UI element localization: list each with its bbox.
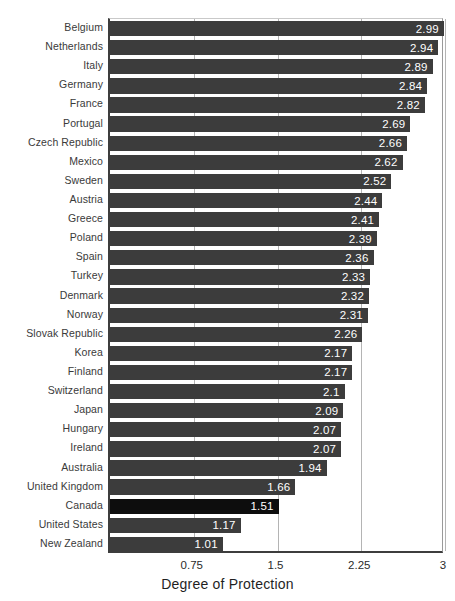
bar-row[interactable]: 2.84 xyxy=(110,78,442,93)
category-label-turkey: Turkey xyxy=(0,270,103,281)
clipped-title-remnant xyxy=(0,0,455,10)
x-axis-title: Degree of Protection xyxy=(0,576,455,592)
bar-norway[interactable] xyxy=(110,308,368,323)
category-label-netherlands: Netherlands xyxy=(0,41,103,52)
bar-portugal[interactable] xyxy=(110,116,410,131)
bar-japan[interactable] xyxy=(110,403,343,418)
category-label-korea: Korea xyxy=(0,347,103,358)
x-tick-label: 1.5 xyxy=(268,559,284,571)
bar-row[interactable]: 2.66 xyxy=(110,136,442,151)
bar-value-label: 1.01 xyxy=(195,538,218,550)
bar-row[interactable]: 1.66 xyxy=(110,479,442,494)
category-label-greece: Greece xyxy=(0,213,103,224)
bar-value-label: 2.26 xyxy=(334,328,357,340)
bar-row[interactable]: 1.51 xyxy=(110,499,442,514)
bar-row[interactable]: 2.31 xyxy=(110,308,442,323)
bar-value-label: 2.62 xyxy=(374,156,397,168)
bar-korea[interactable] xyxy=(110,346,352,361)
bars-layer: 2.992.942.892.842.822.692.662.622.522.44… xyxy=(110,19,442,551)
bar-row[interactable]: 2.69 xyxy=(110,116,442,131)
bar-value-label: 2.52 xyxy=(363,175,386,187)
bar-ireland[interactable] xyxy=(110,441,341,456)
bar-value-label: 2.44 xyxy=(354,195,377,207)
bar-poland[interactable] xyxy=(110,231,377,246)
category-label-portugal: Portugal xyxy=(0,118,103,129)
bar-australia[interactable] xyxy=(110,460,327,475)
category-label-switzerland: Switzerland xyxy=(0,385,103,396)
bar-turkey[interactable] xyxy=(110,269,370,284)
bar-row[interactable]: 2.52 xyxy=(110,174,442,189)
bar-value-label: 2.39 xyxy=(349,233,372,245)
bar-greece[interactable] xyxy=(110,212,379,227)
category-label-austria: Austria xyxy=(0,194,103,205)
bar-denmark[interactable] xyxy=(110,288,369,303)
bar-row[interactable]: 2.32 xyxy=(110,288,442,303)
bar-row[interactable]: 1.94 xyxy=(110,460,442,475)
category-label-mexico: Mexico xyxy=(0,156,103,167)
bar-row[interactable]: 2.82 xyxy=(110,97,442,112)
bar-spain[interactable] xyxy=(110,250,374,265)
bar-value-label: 2.82 xyxy=(397,99,420,111)
bar-row[interactable]: 2.62 xyxy=(110,155,442,170)
bar-value-label: 2.07 xyxy=(313,424,336,436)
bar-value-label: 2.17 xyxy=(324,366,347,378)
bar-row[interactable]: 1.01 xyxy=(110,537,442,552)
bar-france[interactable] xyxy=(110,97,425,112)
bar-value-label: 2.07 xyxy=(313,443,336,455)
category-label-belgium: Belgium xyxy=(0,22,103,33)
category-label-sweden: Sweden xyxy=(0,175,103,186)
bar-value-label: 2.89 xyxy=(405,61,428,73)
bar-value-label: 2.84 xyxy=(399,80,422,92)
x-tick-label: 0.75 xyxy=(181,559,203,571)
bar-value-label: 2.36 xyxy=(345,252,368,264)
bar-row[interactable]: 2.94 xyxy=(110,40,442,55)
bar-czech-republic[interactable] xyxy=(110,136,407,151)
category-label-czech-republic: Czech Republic xyxy=(0,137,103,148)
category-label-spain: Spain xyxy=(0,251,103,262)
bar-switzerland[interactable] xyxy=(110,384,345,399)
bar-row[interactable]: 2.41 xyxy=(110,212,442,227)
bar-value-label: 2.99 xyxy=(416,23,439,35)
bar-row[interactable]: 2.33 xyxy=(110,269,442,284)
bar-austria[interactable] xyxy=(110,193,382,208)
bar-row[interactable]: 2.44 xyxy=(110,193,442,208)
bar-value-label: 2.33 xyxy=(342,271,365,283)
bar-row[interactable]: 2.26 xyxy=(110,327,442,342)
bar-sweden[interactable] xyxy=(110,174,391,189)
bar-value-label: 2.09 xyxy=(315,405,338,417)
bar-slovak-republic[interactable] xyxy=(110,327,362,342)
bar-value-label: 1.66 xyxy=(267,481,290,493)
bar-row[interactable]: 2.39 xyxy=(110,231,442,246)
bar-italy[interactable] xyxy=(110,59,433,74)
bar-value-label: 1.94 xyxy=(298,462,321,474)
bar-hungary[interactable] xyxy=(110,422,341,437)
bar-row[interactable]: 2.89 xyxy=(110,59,442,74)
bar-germany[interactable] xyxy=(110,78,427,93)
bar-row[interactable]: 2.07 xyxy=(110,441,442,456)
bar-row[interactable]: 2.09 xyxy=(110,403,442,418)
bar-row[interactable]: 2.07 xyxy=(110,422,442,437)
bar-value-label: 2.31 xyxy=(340,309,363,321)
bar-mexico[interactable] xyxy=(110,155,403,170)
category-label-germany: Germany xyxy=(0,79,103,90)
bar-row[interactable]: 2.1 xyxy=(110,384,442,399)
gridline xyxy=(445,19,446,551)
bar-value-label: 2.32 xyxy=(341,290,364,302)
category-label-united-states: United States xyxy=(0,519,103,530)
bar-finland[interactable] xyxy=(110,365,352,380)
bar-belgium[interactable] xyxy=(110,21,444,36)
bar-row[interactable]: 2.99 xyxy=(110,21,442,36)
bar-value-label: 2.1 xyxy=(323,386,340,398)
category-label-ireland: Ireland xyxy=(0,442,103,453)
category-label-australia: Australia xyxy=(0,462,103,473)
bar-value-label: 2.69 xyxy=(382,118,405,130)
bar-row[interactable]: 2.36 xyxy=(110,250,442,265)
bar-row[interactable]: 1.17 xyxy=(110,518,442,533)
plot-area: 2.992.942.892.842.822.692.662.622.522.44… xyxy=(108,18,443,553)
category-label-united-kingdom: United Kingdom xyxy=(0,481,103,492)
bar-row[interactable]: 2.17 xyxy=(110,346,442,361)
category-label-new-zealand: New Zealand xyxy=(0,538,103,549)
bar-row[interactable]: 2.17 xyxy=(110,365,442,380)
bar-netherlands[interactable] xyxy=(110,40,438,55)
bar-value-label: 2.94 xyxy=(410,42,433,54)
